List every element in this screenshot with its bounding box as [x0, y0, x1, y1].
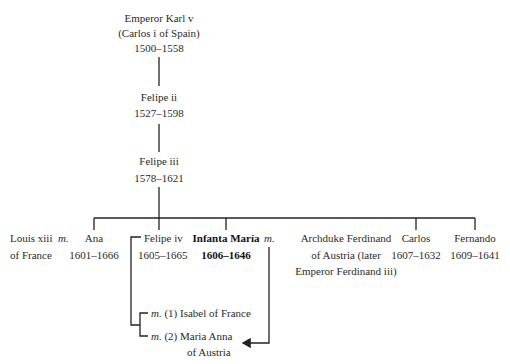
louis13-name: Louis xiii: [10, 231, 52, 246]
fernando-name: Fernando: [454, 231, 496, 246]
felipe4-marriages-split: [140, 313, 148, 336]
ana-name: Ana: [85, 231, 103, 246]
carlos-dates: 1607–1632: [391, 248, 441, 263]
infanta-maria-dates: 1606–1646: [201, 248, 251, 263]
maria-marriage-marker: m.: [264, 231, 275, 246]
felipe2-dates: 1527–1598: [134, 106, 184, 121]
ferdinand-line3: Emperor Ferdinand iii): [295, 264, 396, 279]
marriage-maria-anna-line2: of Austria: [187, 345, 231, 360]
carlos-name: Carlos: [402, 231, 431, 246]
fernando-dates: 1609–1641: [450, 248, 500, 263]
root-alt-name: (Carlos i of Spain): [118, 26, 200, 41]
marriage-maria-anna: m. (2) Maria Anna: [151, 329, 232, 344]
ferdinand-line2: of Austria (later: [311, 248, 381, 263]
ana-marriage-marker: m.: [58, 231, 69, 246]
marriage-isabel: m. (1) Isabel of France: [151, 306, 251, 321]
felipe4-dates: 1605–1665: [138, 248, 188, 263]
root-dates: 1500–1558: [134, 41, 184, 56]
felipe3-dates: 1578–1621: [134, 171, 184, 186]
louis13-title: of France: [10, 248, 52, 263]
tree-connectors: [0, 0, 510, 364]
felipe3-name: Felipe iii: [139, 154, 178, 169]
ana-dates: 1601–1666: [69, 248, 119, 263]
felipe4-name: Felipe iv: [144, 231, 183, 246]
root-name: Emperor Karl v: [124, 11, 193, 26]
ferdinand-line1: Archduke Ferdinand: [301, 231, 392, 246]
infanta-maria-name: Infanta María: [193, 231, 260, 246]
felipe2-name: Felipe ii: [141, 90, 177, 105]
